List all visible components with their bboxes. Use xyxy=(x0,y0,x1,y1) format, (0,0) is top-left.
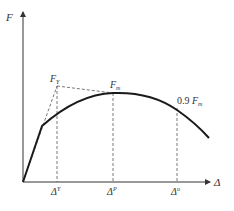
x-axis-label: Δ xyxy=(213,176,220,188)
force-curve xyxy=(23,93,209,182)
tick-peak-displacement: ΔP xyxy=(106,186,117,197)
dashed-construction-lines xyxy=(23,86,177,182)
yield-to-max-line xyxy=(57,86,113,93)
tick-ultimate-displacement: Δu xyxy=(170,186,180,197)
ultimate-force-label: 0.9 Fm xyxy=(177,95,203,107)
force-displacement-diagram: F Δ FY Fm 0.9 Fm ΔY ΔP Δu xyxy=(0,0,234,211)
max-force-label: Fm xyxy=(109,79,121,91)
yield-force-label: FY xyxy=(49,73,60,85)
tick-yield-displacement: ΔY xyxy=(50,186,61,197)
y-axis-label: F xyxy=(5,11,13,23)
